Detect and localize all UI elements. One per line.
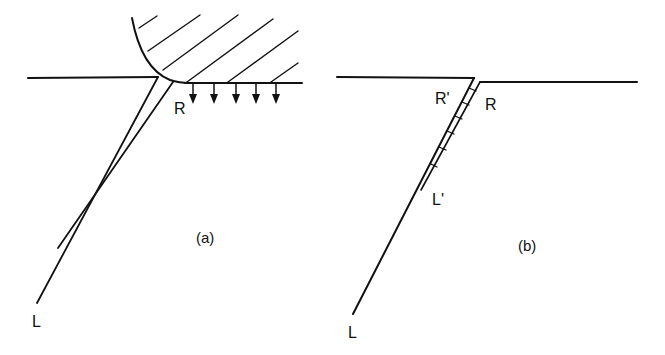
arrow-heads — [189, 94, 280, 104]
caption-b: (b) — [518, 238, 536, 253]
panel-a-drawing — [28, 15, 302, 303]
crack-right-flank — [58, 82, 173, 248]
label-r-b: R — [485, 97, 497, 113]
label-r-prime-b: R' — [435, 91, 450, 107]
label-r-a: R — [174, 101, 186, 117]
label-l-prime-b: L' — [432, 192, 444, 208]
crack-right-flank-b — [421, 82, 480, 190]
crack-main-line — [353, 78, 474, 314]
diagram-canvas — [0, 0, 665, 355]
caption-a: (a) — [196, 230, 214, 245]
left-surface-line — [28, 77, 158, 78]
label-l-b: L — [348, 325, 357, 341]
left-surface-line-b — [337, 77, 474, 78]
label-l-a: L — [32, 314, 41, 330]
hatch-lines — [139, 15, 298, 82]
